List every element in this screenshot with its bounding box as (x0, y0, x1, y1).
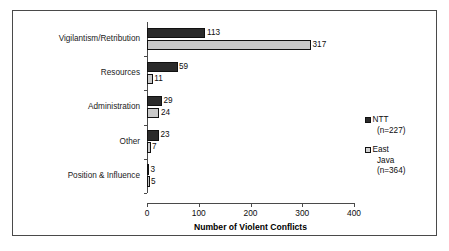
legend-sub-east-java: (n=364) (377, 166, 435, 177)
bar-ntt: 29 (147, 96, 162, 107)
bar-east-java: 5 (147, 176, 150, 187)
category-row: Vigilantism/Retribution113317 (147, 22, 354, 56)
legend-label-ntt: NTT (373, 115, 436, 126)
bar-value-label: 59 (179, 63, 188, 71)
legend-label-east-java: East (373, 145, 436, 156)
category-row: Administration2924 (147, 90, 354, 124)
bar-value-label: 5 (151, 177, 156, 185)
legend-sub-ntt: (n=227) (377, 126, 435, 137)
x-axis-tick-label: 300 (295, 209, 309, 217)
legend-label-east-java-line2: Java (377, 156, 435, 167)
x-axis-tick-label: 100 (192, 209, 206, 217)
category-row: Other237 (147, 125, 354, 159)
bar-east-java: 24 (147, 108, 159, 119)
category-row: Position & Influence35 (147, 159, 354, 193)
bar-value-label: 3 (151, 165, 156, 173)
bar-value-label: 24 (161, 109, 170, 117)
x-axis-title: Number of Violent Conflicts (147, 222, 354, 232)
bar-value-label: 317 (313, 41, 327, 49)
category-label: Position & Influence (68, 172, 140, 180)
category-label: Vigilantism/Retribution (59, 35, 140, 43)
legend-swatch-ntt-icon (365, 117, 371, 123)
bars-layer: Vigilantism/Retribution113317Resources59… (147, 22, 354, 193)
x-axis-tick-label: 400 (347, 209, 361, 217)
category-row: Resources5911 (147, 56, 354, 90)
x-axis-tick-mark (199, 203, 200, 207)
chart-legend: NTT (n=227) East Java (n=364) (365, 115, 435, 186)
bar-ntt: 3 (147, 164, 149, 175)
bar-value-label: 29 (164, 97, 173, 105)
chart-frame: Vigilantism/Retribution113317Resources59… (12, 10, 437, 236)
bar-value-label: 11 (154, 75, 163, 83)
category-label: Resources (101, 69, 140, 77)
legend-swatch-east-java-icon (365, 147, 371, 153)
bar-ntt: 23 (147, 130, 159, 141)
category-label: Other (120, 138, 140, 146)
bar-east-java: 317 (147, 40, 311, 51)
bar-value-label: 113 (207, 29, 220, 37)
x-axis-tick-label: 0 (145, 209, 150, 217)
y-axis-tick (144, 193, 148, 194)
bar-value-label: 23 (160, 131, 169, 139)
x-axis-tick-mark (302, 203, 303, 207)
bar-ntt: 59 (147, 62, 178, 73)
category-label: Administration (88, 103, 140, 111)
x-axis-tick-mark (147, 203, 148, 207)
legend-item-ntt: NTT (n=227) (365, 115, 435, 136)
x-axis-tick-label: 200 (244, 209, 258, 217)
x-axis-tick-mark (251, 203, 252, 207)
x-axis-tick-mark (354, 203, 355, 207)
bar-east-java: 11 (147, 74, 153, 85)
legend-item-east-java: East Java (n=364) (365, 145, 435, 177)
bar-value-label: 7 (152, 143, 157, 151)
bar-ntt: 113 (147, 28, 205, 39)
bar-east-java: 7 (147, 142, 151, 153)
